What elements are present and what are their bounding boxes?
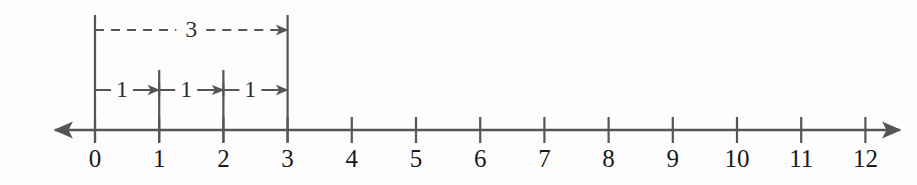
number-line-figure: 0123456789101112 3111 [0, 0, 917, 185]
total-span-arrow: 3 [95, 16, 288, 42]
tick-label-6: 6 [474, 145, 487, 172]
unit-jump-2: 1 [159, 76, 223, 102]
unit-jump-1-label: 1 [116, 76, 128, 102]
tick-label-4: 4 [346, 145, 359, 172]
tick-label-3: 3 [281, 145, 294, 172]
number-line-svg: 0123456789101112 3111 [0, 0, 917, 185]
tick-label-10: 10 [725, 145, 750, 172]
tick-label-5: 5 [410, 145, 423, 172]
unit-jump-3: 1 [223, 76, 287, 102]
tick-label-2: 2 [217, 145, 230, 172]
tick-label-11: 11 [789, 145, 813, 172]
tick-label-8: 8 [602, 145, 615, 172]
tick-label-1: 1 [153, 145, 166, 172]
unit-jump-1: 1 [95, 76, 159, 102]
measurement-arrows-group: 3111 [95, 16, 288, 102]
tick-label-12: 12 [853, 145, 878, 172]
tick-label-7: 7 [538, 145, 551, 172]
tick-labels-group: 0123456789101112 [89, 145, 878, 172]
unit-jump-3-label: 1 [244, 76, 256, 102]
total-span-arrow-label: 3 [185, 16, 197, 42]
unit-jump-2-label: 1 [180, 76, 192, 102]
tick-label-9: 9 [667, 145, 680, 172]
tick-label-0: 0 [89, 145, 102, 172]
